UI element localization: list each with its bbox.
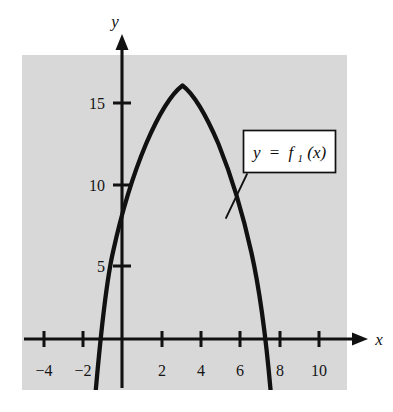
- graph-canvas: −4 −2 2 4 6 8 10 15 10 5 y x y = f 1 (x): [0, 0, 393, 412]
- x-tick-label-8: 8: [276, 362, 284, 379]
- x-tick-label-4: 4: [197, 362, 205, 379]
- y-tick-label-15: 15: [89, 95, 105, 112]
- x-axis-arrowhead: [352, 333, 368, 346]
- x-tick-label-6: 6: [236, 362, 244, 379]
- x-tick-label-10: 10: [311, 362, 327, 379]
- y-tick-label-5: 5: [97, 258, 105, 275]
- curve-label-subscript: 1: [298, 152, 304, 164]
- curve-label-lhs: y: [251, 143, 261, 162]
- x-tick-label--4: −4: [35, 362, 52, 379]
- curve-label-function-name: f: [289, 143, 296, 162]
- x-tick-label-2: 2: [158, 362, 166, 379]
- x-axis-label: x: [374, 330, 383, 349]
- y-tick-label-10: 10: [89, 177, 105, 194]
- y-axis-label: y: [109, 12, 119, 31]
- x-tick-label--2: −2: [74, 362, 91, 379]
- graph-figure: −4 −2 2 4 6 8 10 15 10 5 y x y = f 1 (x): [0, 0, 393, 412]
- curve-label-argument: (x): [307, 143, 326, 162]
- curve-label-operator: =: [270, 143, 280, 162]
- y-axis-arrowhead: [116, 34, 129, 50]
